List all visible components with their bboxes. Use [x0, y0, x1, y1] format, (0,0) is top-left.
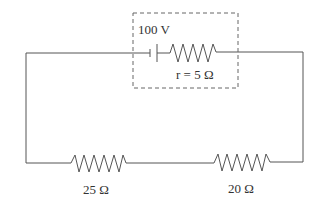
resistor-20-icon [214, 154, 270, 171]
resistor-20-label: 20 Ω [228, 181, 254, 196]
source-voltage-label: 100 V [138, 22, 171, 37]
resistor-25-icon [71, 155, 126, 172]
wire-right [223, 52, 303, 162]
resistor-25-label: 25 Ω [83, 182, 109, 197]
wire-left-top [26, 53, 150, 163]
circuit-diagram: 100 V r = 5 Ω 25 Ω 20 Ω [0, 0, 324, 207]
internal-resistance-label: r = 5 Ω [176, 67, 214, 82]
battery-icon [150, 44, 170, 62]
internal-resistor-icon [170, 44, 223, 62]
